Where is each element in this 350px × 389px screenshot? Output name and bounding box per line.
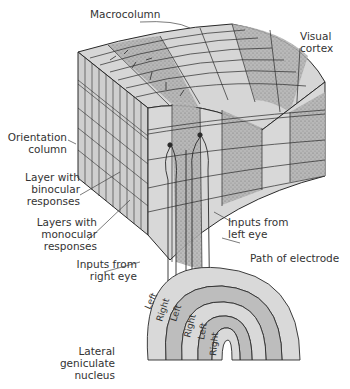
visual-cortex-label: Visual cortex: [300, 30, 333, 54]
path-electrode-label: Path of electrode: [250, 252, 339, 264]
inputs-left-eye-label: Inputs from left eye: [228, 216, 288, 240]
orientation-column-label: Orientation column: [8, 131, 67, 155]
lgn-label: Lateral geniculate nucleus: [60, 345, 115, 381]
macrocolumn-label: Macrocolumn: [90, 8, 160, 20]
lgn-layer-6-label: Right: [208, 331, 220, 356]
layers-monocular-label: Layers with monocular responses: [37, 216, 97, 252]
lateral-geniculate-nucleus: Left Right Left Right Left Right: [143, 267, 300, 360]
layer-binocular-label: Layer with binocular responses: [25, 171, 80, 207]
inputs-right-eye-label: Inputs from right eye: [77, 258, 137, 282]
